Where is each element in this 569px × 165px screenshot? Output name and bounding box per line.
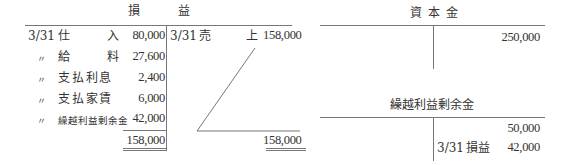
retained-earnings-title: 繰越利益剰余金 xyxy=(390,98,474,112)
entry-item: 損益 xyxy=(466,141,490,155)
entry-date: 3/31 xyxy=(437,141,464,155)
capital-credit-amount: 250,000 xyxy=(501,30,540,45)
pl-credit-total: 158,000 xyxy=(263,133,302,148)
capital-center-divider xyxy=(433,25,434,69)
pl-credit-double-rule xyxy=(266,148,306,149)
capital-title: 資 本 金 xyxy=(410,6,459,20)
entry-amount: 42,000 xyxy=(507,140,540,155)
pl-credit-double-rule xyxy=(266,150,306,151)
retained-earnings-center-divider xyxy=(433,117,434,161)
retained-earnings-credit-amount: 50,000 xyxy=(507,121,540,136)
